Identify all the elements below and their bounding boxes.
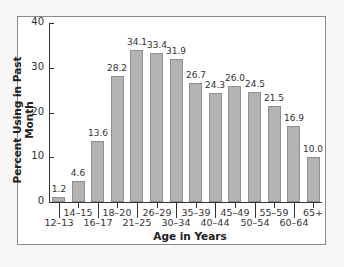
- y-tick: [49, 68, 54, 69]
- bar-value-label: 28.2: [102, 63, 132, 73]
- y-tick: [49, 23, 54, 24]
- bar: [209, 93, 222, 202]
- bar-value-label: 4.6: [63, 168, 93, 178]
- x-axis: [49, 202, 322, 203]
- bar: [287, 126, 300, 202]
- bar: [170, 59, 183, 202]
- x-tick-label: 60–64: [274, 217, 314, 228]
- bar-value-label: 31.9: [161, 46, 191, 56]
- x-tick-label: 16–17: [78, 217, 118, 228]
- bar: [189, 83, 202, 202]
- bar-value-label: 24.5: [240, 79, 270, 89]
- y-tick-label: 40: [24, 16, 44, 27]
- y-tick: [49, 113, 54, 114]
- x-axis-title: Age in Years: [120, 230, 260, 242]
- y-tick: [49, 202, 54, 203]
- bar: [248, 92, 261, 202]
- y-tick-label: 0: [24, 195, 44, 206]
- bar-value-label: 21.5: [259, 93, 289, 103]
- bar: [228, 86, 241, 202]
- bar: [150, 53, 163, 202]
- bar-value-label: 26.7: [181, 70, 211, 80]
- bar: [130, 50, 143, 202]
- bar: [72, 181, 85, 202]
- y-tick-label: 20: [24, 106, 44, 117]
- bar-value-label: 10.0: [298, 144, 328, 154]
- bar-value-label: 16.9: [279, 113, 309, 123]
- y-tick-label: 30: [24, 61, 44, 72]
- y-tick-label: 10: [24, 150, 44, 161]
- bar: [111, 76, 124, 202]
- x-tick-label: 30–34: [156, 217, 196, 228]
- bar: [91, 141, 104, 202]
- x-tick-label: 65+: [293, 207, 333, 218]
- y-tick: [49, 157, 54, 158]
- x-tick-label: 21–25: [117, 217, 157, 228]
- x-tick-label: 12–13: [39, 217, 79, 228]
- bar-value-label: 13.6: [83, 128, 113, 138]
- bar-value-label: 1.2: [44, 184, 74, 194]
- bar: [307, 157, 320, 202]
- x-tick-label: 50–54: [235, 217, 275, 228]
- x-tick-label: 40–44: [195, 217, 235, 228]
